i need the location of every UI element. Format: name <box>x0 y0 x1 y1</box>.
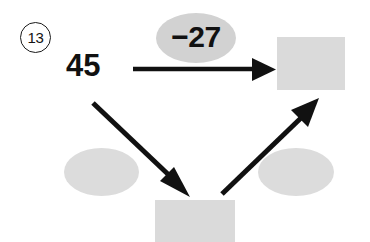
answer-box-top-right[interactable] <box>277 37 345 90</box>
operation-oval-top-label: −27 <box>171 22 220 52</box>
operation-oval-bottom-left[interactable] <box>64 148 139 196</box>
answer-box-bottom[interactable] <box>155 200 235 242</box>
start-number: 45 <box>66 50 100 81</box>
operation-oval-bottom-right[interactable] <box>258 148 334 196</box>
problem-number-badge: 13 <box>20 22 51 53</box>
operation-oval-top[interactable]: −27 <box>156 13 236 63</box>
worksheet-canvas: 13 45 −27 <box>0 0 370 242</box>
